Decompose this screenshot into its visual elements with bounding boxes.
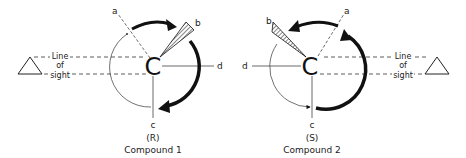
chirality-diagram: Line of sight a b d c C (R) Compound 1 [0, 0, 466, 158]
line-of-sight-label-3: sight [393, 71, 413, 80]
substituent-d-label: d [217, 61, 223, 71]
observer-triangle-icon [18, 57, 42, 74]
line-of-sight-label-1: Line [395, 52, 412, 61]
arrowhead-icon [288, 20, 300, 32]
arrowhead-icon [340, 29, 352, 41]
compound-caption: Compound 2 [283, 145, 341, 155]
configuration-label: (R) [146, 133, 159, 143]
bond-b-wedge [272, 22, 306, 57]
thick-arrow-a-to-b [132, 22, 170, 29]
thick-arrow-a-to-b [296, 22, 338, 27]
substituent-d-label: d [242, 61, 248, 71]
line-of-sight-label-2: of [56, 61, 64, 70]
central-carbon-label: C [145, 53, 162, 81]
substituent-b-label: b [266, 16, 272, 26]
line-of-sight-label-2: of [399, 61, 407, 70]
bond-a [318, 14, 344, 56]
arrowhead-icon [166, 19, 177, 31]
bond-b-wedge [160, 22, 194, 57]
central-carbon-label: C [302, 53, 319, 81]
substituent-a-label: a [112, 6, 118, 16]
substituent-a-label: a [344, 6, 350, 16]
substituent-b-label: b [195, 18, 201, 28]
thick-arrow-b-to-c [166, 41, 199, 106]
substituent-c-label: c [310, 120, 315, 130]
compound-1: Line of sight a b d c C (R) Compound 1 [18, 6, 223, 155]
bond-a [118, 14, 150, 58]
compound-2: Line of sight a b d c C (S) Compound 2 [242, 6, 449, 155]
configuration-label: (S) [306, 133, 319, 143]
line-of-sight-label-3: sight [50, 71, 70, 80]
substituent-c-label: c [151, 120, 156, 130]
arrowhead-icon [158, 100, 170, 113]
observer-triangle-icon [425, 57, 449, 74]
line-of-sight-label-1: Line [52, 52, 69, 61]
compound-caption: Compound 1 [124, 145, 182, 155]
